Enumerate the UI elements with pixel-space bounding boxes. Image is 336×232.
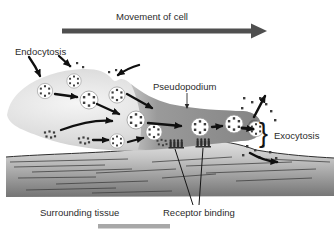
endocytosis-label: Endocytosis <box>15 46 66 57</box>
exocytosis-brace: } <box>259 118 268 148</box>
diagram-canvas: Movement of cell <box>0 0 336 232</box>
movement-direction-arrow <box>62 24 267 39</box>
vesicle <box>146 124 162 140</box>
vesicle <box>225 115 243 133</box>
vesicle <box>110 134 124 148</box>
vesicle <box>67 74 81 88</box>
vesicle <box>80 91 98 109</box>
exocytosis-label: Exocytosis <box>274 130 320 141</box>
pseudopodium-region <box>131 84 261 150</box>
surrounding-tissue-label: Surrounding tissue <box>40 207 119 218</box>
pseudopodium-label: Pseudopodium <box>153 81 216 92</box>
vesicle <box>109 87 125 103</box>
cell-movement-diagram: Movement of cell <box>0 0 336 232</box>
movement-of-cell-label: Movement of cell <box>116 11 188 22</box>
vesicle <box>191 118 209 136</box>
scale-bar <box>98 224 170 229</box>
vesicle <box>37 83 52 98</box>
vesicle <box>127 111 145 129</box>
surrounding-tissue <box>6 141 334 197</box>
receptor-binding-label: Receptor binding <box>163 207 235 218</box>
